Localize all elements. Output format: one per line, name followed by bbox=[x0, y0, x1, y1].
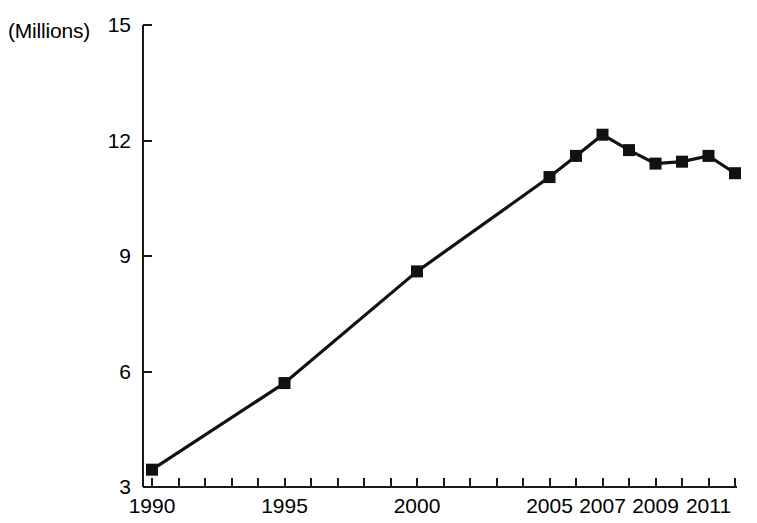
y-tick-label: 15 bbox=[108, 13, 131, 36]
data-point-marker bbox=[650, 158, 662, 170]
x-tick-label: 2000 bbox=[394, 494, 441, 517]
y-tick-label: 6 bbox=[119, 360, 131, 383]
x-tick-label: 1995 bbox=[261, 494, 308, 517]
y-tick-label: 9 bbox=[119, 244, 131, 267]
y-tick-label: 12 bbox=[108, 129, 131, 152]
data-point-marker bbox=[676, 156, 688, 168]
data-point-marker bbox=[570, 150, 582, 162]
data-series-line bbox=[152, 135, 735, 470]
x-tick-label: 2009 bbox=[632, 494, 679, 517]
x-tick-label: 2011 bbox=[686, 494, 731, 517]
data-point-markers bbox=[146, 129, 741, 476]
data-point-marker bbox=[623, 144, 635, 156]
data-point-marker bbox=[703, 150, 715, 162]
x-axis-tick-labels: 1990199520002005200720092011 bbox=[129, 494, 731, 517]
data-point-marker bbox=[729, 167, 741, 179]
x-axis-ticks bbox=[152, 478, 735, 487]
x-tick-label: 2007 bbox=[579, 494, 626, 517]
line-chart: 3691215 1990199520002005200720092011 bbox=[0, 0, 757, 523]
y-axis-tick-labels: 3691215 bbox=[108, 13, 131, 498]
data-point-marker bbox=[411, 265, 423, 277]
data-point-marker bbox=[544, 171, 556, 183]
x-tick-label: 1990 bbox=[129, 494, 176, 517]
y-axis-ticks bbox=[143, 25, 152, 487]
data-point-marker bbox=[279, 377, 291, 389]
data-point-marker bbox=[146, 464, 158, 476]
chart-container: (Millions) 3691215 199019952000200520072… bbox=[0, 0, 757, 523]
x-tick-label: 2005 bbox=[526, 494, 573, 517]
data-point-marker bbox=[597, 129, 609, 141]
